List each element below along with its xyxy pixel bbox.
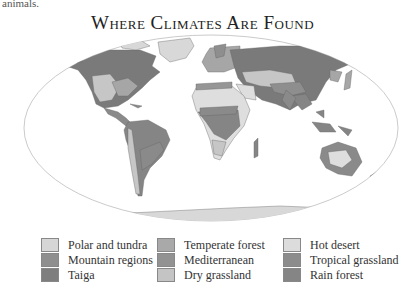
swatch-polar-tundra xyxy=(41,238,59,252)
legend-col-1: Polar and tundra Mountain regions Taiga xyxy=(41,238,153,283)
legend-col-2: Temperate forest Mediterranean Dry grass… xyxy=(157,238,265,283)
swatch-taiga xyxy=(41,268,59,282)
legend-item-taiga: Taiga xyxy=(41,268,153,282)
swatch-temperate-forest xyxy=(157,238,175,252)
legend-item-rain-forest: Rain forest xyxy=(283,268,399,282)
legend-item-mountain-regions: Mountain regions xyxy=(41,253,153,267)
swatch-mountain-regions xyxy=(41,253,59,267)
swatch-hot-desert xyxy=(283,238,301,252)
legend-item-mediterranean: Mediterranean xyxy=(157,253,265,267)
legend-item-polar-tundra: Polar and tundra xyxy=(41,238,153,252)
swatch-rain-forest xyxy=(283,268,301,282)
legend-item-temperate-forest: Temperate forest xyxy=(157,238,265,252)
swatch-dry-grassland xyxy=(157,268,175,282)
legend-item-hot-desert: Hot desert xyxy=(283,238,399,252)
legend-col-3: Hot desert Tropical grassland Rain fores… xyxy=(283,238,399,283)
legend-item-tropical-grassland: Tropical grassland xyxy=(283,253,399,267)
legend-item-dry-grassland: Dry grassland xyxy=(157,268,265,282)
swatch-mediterranean xyxy=(157,253,175,267)
swatch-tropical-grassland xyxy=(283,253,301,267)
